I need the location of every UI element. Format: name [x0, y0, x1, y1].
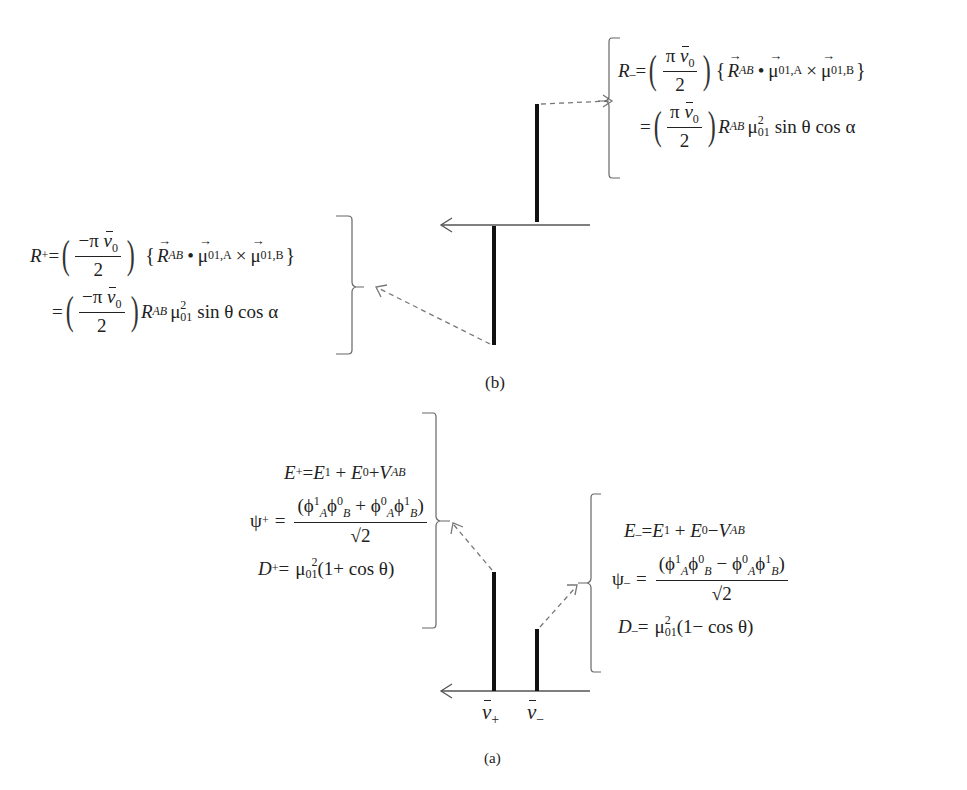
trig-factor: sin θ cos α	[197, 302, 278, 321]
mu-a-vector: μ	[198, 246, 208, 265]
cross-product-symbol: ×	[806, 61, 817, 80]
cross-product-symbol: ×	[236, 246, 247, 265]
psi-minus-numerator: (ϕ1Aϕ0B − ϕ0Aϕ1B)	[656, 553, 788, 581]
nu-minus-subscript: −	[536, 712, 544, 727]
panel-b-bracket-r-minus	[598, 38, 620, 178]
e0-symbol: E	[690, 521, 702, 540]
d-minus-symbol: D	[618, 617, 632, 636]
v-symbol: V	[718, 521, 730, 540]
psi-plus-denominator: √2	[351, 523, 371, 545]
equals-sign: =	[275, 511, 286, 530]
panel-b-graphics	[336, 38, 620, 354]
prefactor-fraction: π ν0 2	[663, 46, 698, 95]
fraction-numerator: π ν0	[667, 102, 702, 129]
e-minus-symbol: E	[624, 521, 636, 540]
equals-sign: =	[48, 246, 59, 265]
mu-indices: 201	[180, 299, 192, 323]
equals-sign: =	[302, 463, 313, 482]
equals-sign: =	[279, 559, 290, 578]
nu-subscript: 0	[116, 296, 122, 310]
panel-b-bracket-r-plus	[336, 216, 364, 354]
tick-label-nu-plus: ν+	[482, 700, 499, 728]
equals-sign: =	[642, 521, 653, 540]
right-paren: )	[127, 235, 135, 275]
minus-state-equations: E_= E1 + E0 − VAB ψ_ = (ϕ1Aϕ0B − ϕ0Aϕ1B)…	[612, 510, 791, 646]
psi-plus-fraction: (ϕ1Aϕ0B + ϕ0Aϕ1B) √2	[294, 495, 426, 545]
mu-indices: 201	[665, 614, 677, 638]
psi-minus-line: ψ_ = (ϕ1Aϕ0B − ϕ0Aϕ1B) √2	[612, 550, 791, 606]
nu-bar-symbol: ν	[482, 700, 491, 725]
r-plus-equation: R+ = ( −π ν0 2 ) { RAB • μ01,A × μ01,B }…	[30, 227, 297, 339]
nu-subscript: 0	[112, 240, 118, 254]
mu-b-vector: μ	[821, 61, 831, 80]
panel-a-bracket-minus	[578, 494, 601, 672]
fraction-numerator: −π ν0	[75, 231, 121, 258]
panel-a-dashed-arrow-minus	[540, 588, 575, 627]
r-ab-subscript: AB	[152, 304, 167, 318]
right-brace: }	[856, 60, 866, 80]
nu-subscript: 0	[693, 111, 699, 125]
nu-plus-subscript: +	[491, 712, 499, 727]
d-plus-subscript: +	[272, 562, 279, 574]
panel-a-dashed-arrow-plus	[454, 525, 492, 570]
mu-indices: 201	[758, 114, 770, 138]
e1-symbol: E	[652, 521, 664, 540]
minus-pi-symbol: −π	[78, 230, 98, 251]
left-brace: {	[145, 245, 155, 265]
trig-factor: sin θ cos α	[775, 117, 856, 136]
d-plus-symbol: D	[258, 559, 272, 578]
e1-symbol: E	[313, 463, 325, 482]
equals-sign: =	[640, 117, 651, 136]
psi-plus-operator: +	[350, 495, 370, 516]
mu-b-vector: μ	[250, 246, 260, 265]
pi-symbol: π	[670, 101, 680, 122]
fraction-numerator: −π ν0	[79, 287, 125, 314]
e-plus-line: E += E1 + E0 + VAB	[250, 452, 430, 492]
d-minus-rhs: (1− cos θ)	[677, 617, 754, 636]
psi-plus-line: ψ+ = (ϕ1Aϕ0B + ϕ0Aϕ1B) √2	[250, 492, 430, 548]
dot-product-symbol: •	[187, 246, 194, 265]
psi-plus-numerator: (ϕ1Aϕ0B + ϕ0Aϕ1B)	[294, 495, 426, 523]
r-ab-symbol: R	[141, 302, 153, 321]
mu-b-subscript: 01,B	[261, 249, 284, 261]
tick-label-nu-minus: ν−	[527, 700, 544, 728]
prefactor-fraction: −π ν0 2	[75, 231, 121, 280]
right-paren: )	[130, 291, 138, 331]
nu-bar-symbol: ν	[527, 700, 536, 725]
mu-a-subscript: 01,A	[208, 249, 232, 261]
e-minus-line: E_= E1 + E0 − VAB	[612, 510, 791, 550]
pi-symbol: π	[666, 45, 676, 66]
left-brace: {	[716, 60, 726, 80]
r-ab-vector: R	[157, 246, 169, 265]
right-paren: )	[707, 106, 715, 146]
psi-minus-subscript: _	[624, 572, 630, 584]
left-paren: (	[653, 106, 661, 146]
r-ab-vector: R	[727, 61, 739, 80]
panel-a-caption: (a)	[484, 750, 501, 767]
v-subscript: AB	[391, 465, 406, 479]
coupling-operator: −	[708, 521, 719, 540]
fraction-numerator: π ν0	[663, 46, 698, 73]
left-paren: (	[62, 235, 70, 275]
equals-sign: =	[638, 617, 649, 636]
e-plus-symbol: E	[284, 463, 296, 482]
e0-symbol: E	[351, 463, 363, 482]
panel-a-graphics	[422, 413, 601, 698]
nu-bar-symbol: ν	[104, 231, 112, 250]
prefactor-fraction: π ν0 2	[667, 102, 702, 151]
r-minus-line-1: R_ = ( π ν0 2 ) { RAB • μ01,A × μ01,B }	[618, 42, 868, 98]
minus-pi-symbol: −π	[82, 286, 102, 307]
left-paren: (	[65, 291, 73, 331]
panel-b-caption: (b)	[485, 373, 505, 393]
mu-symbol: μ	[295, 559, 305, 578]
right-paren: )	[703, 50, 711, 90]
plus-state-equations: E += E1 + E0 + VAB ψ+ = (ϕ1Aϕ0B + ϕ0Aϕ1B…	[250, 452, 430, 588]
mu-symbol: μ	[747, 117, 757, 136]
right-brace: }	[286, 245, 296, 265]
mu-a-vector: μ	[768, 61, 778, 80]
r-plus-subscript: +	[42, 249, 49, 261]
psi-minus-symbol: ψ	[612, 569, 624, 588]
d-plus-rhs: (1+ cos θ)	[317, 559, 394, 578]
fraction-denominator: 2	[680, 128, 690, 150]
left-paren: (	[649, 50, 657, 90]
